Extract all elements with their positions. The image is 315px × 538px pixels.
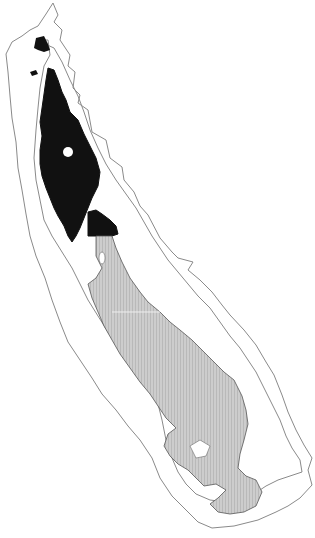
lake-south-1 [99, 252, 105, 264]
map-canvas [0, 0, 315, 538]
lake-hole [63, 147, 73, 157]
map [0, 0, 315, 538]
